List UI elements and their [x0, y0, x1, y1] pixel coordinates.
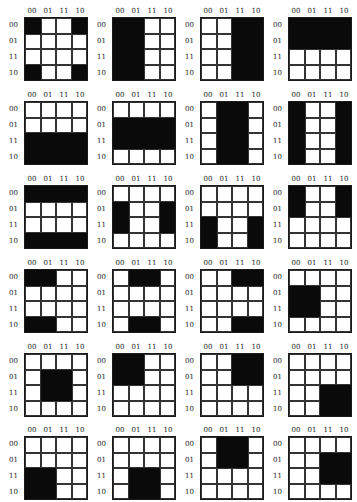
filled-cell [320, 468, 336, 484]
column-label: 00 [24, 258, 40, 268]
column-label: 11 [320, 6, 336, 16]
empty-cell [56, 118, 72, 134]
row-label: 11 [266, 468, 286, 484]
row-label: 10 [90, 484, 110, 500]
filled-cell [113, 34, 129, 50]
kmap-cells [288, 436, 352, 500]
filled-cell [25, 186, 41, 202]
row-label: 00 [2, 436, 22, 452]
column-label: 10 [72, 90, 88, 100]
column-label: 00 [112, 6, 128, 16]
filled-cell [113, 49, 129, 65]
empty-cell [201, 102, 217, 118]
kmap-cells [24, 185, 88, 249]
empty-cell [41, 354, 57, 370]
row-label: 01 [178, 33, 198, 49]
column-label: 00 [200, 425, 216, 435]
empty-cell [305, 270, 321, 286]
column-labels: 00011110 [200, 6, 264, 16]
empty-cell [25, 102, 41, 118]
filled-cell [320, 18, 336, 34]
filled-cell [305, 18, 321, 34]
row-label: 11 [178, 468, 198, 484]
filled-cell [232, 102, 248, 118]
empty-cell [201, 34, 217, 50]
empty-cell [56, 270, 72, 286]
filled-cell [56, 385, 72, 401]
column-label: 10 [160, 425, 176, 435]
empty-cell [232, 401, 248, 417]
empty-cell [41, 453, 57, 469]
empty-cell [113, 186, 129, 202]
column-label: 01 [40, 6, 56, 16]
empty-cell [217, 468, 233, 484]
empty-cell [305, 118, 321, 134]
empty-cell [113, 453, 129, 469]
filled-cell [289, 286, 305, 302]
row-label: 10 [90, 401, 110, 417]
row-label: 00 [90, 185, 110, 201]
empty-cell [305, 202, 321, 218]
filled-cell [144, 468, 160, 484]
filled-cell [305, 301, 321, 317]
row-label: 11 [178, 385, 198, 401]
column-label: 10 [160, 90, 176, 100]
row-label: 11 [2, 385, 22, 401]
karnaugh-map-4: 0001111000011110 [266, 2, 354, 86]
empty-cell [336, 437, 352, 453]
row-label: 00 [90, 17, 110, 33]
empty-cell [144, 354, 160, 370]
column-label: 01 [304, 425, 320, 435]
row-label: 01 [266, 33, 286, 49]
column-label: 01 [40, 174, 56, 184]
empty-cell [201, 385, 217, 401]
empty-cell [336, 317, 352, 333]
row-label: 00 [266, 185, 286, 201]
filled-cell [320, 453, 336, 469]
empty-cell [56, 65, 72, 81]
filled-cell [144, 484, 160, 500]
column-label: 10 [248, 258, 264, 268]
empty-cell [201, 118, 217, 134]
karnaugh-map-6: 0001111000011110 [90, 86, 178, 170]
empty-cell [289, 468, 305, 484]
row-label: 00 [90, 436, 110, 452]
empty-cell [72, 385, 88, 401]
kmap-cells [112, 436, 176, 500]
filled-cell [144, 317, 160, 333]
row-labels: 00011110 [90, 101, 110, 165]
column-label: 01 [216, 174, 232, 184]
row-label: 10 [90, 233, 110, 249]
column-label: 00 [200, 342, 216, 352]
empty-cell [72, 484, 88, 500]
empty-cell [217, 18, 233, 34]
column-label: 10 [160, 174, 176, 184]
filled-cell [336, 202, 352, 218]
karnaugh-map-22: 0001111000011110 [90, 421, 178, 502]
row-label: 11 [178, 133, 198, 149]
empty-cell [305, 149, 321, 165]
column-label: 11 [56, 174, 72, 184]
empty-cell [336, 301, 352, 317]
empty-cell [56, 317, 72, 333]
karnaugh-map-1: 0001111000011110 [2, 2, 90, 86]
column-label: 01 [40, 258, 56, 268]
filled-cell [56, 186, 72, 202]
column-label: 10 [336, 90, 352, 100]
row-label: 11 [90, 49, 110, 65]
empty-cell [320, 301, 336, 317]
empty-cell [41, 301, 57, 317]
empty-cell [56, 453, 72, 469]
row-label: 00 [178, 17, 198, 33]
filled-cell [336, 149, 352, 165]
column-label: 00 [112, 425, 128, 435]
filled-cell [41, 468, 57, 484]
row-label: 10 [2, 401, 22, 417]
empty-cell [144, 370, 160, 386]
filled-cell [129, 133, 145, 149]
empty-cell [41, 49, 57, 65]
row-label: 01 [2, 452, 22, 468]
filled-cell [129, 118, 145, 134]
filled-cell [336, 102, 352, 118]
empty-cell [201, 149, 217, 165]
